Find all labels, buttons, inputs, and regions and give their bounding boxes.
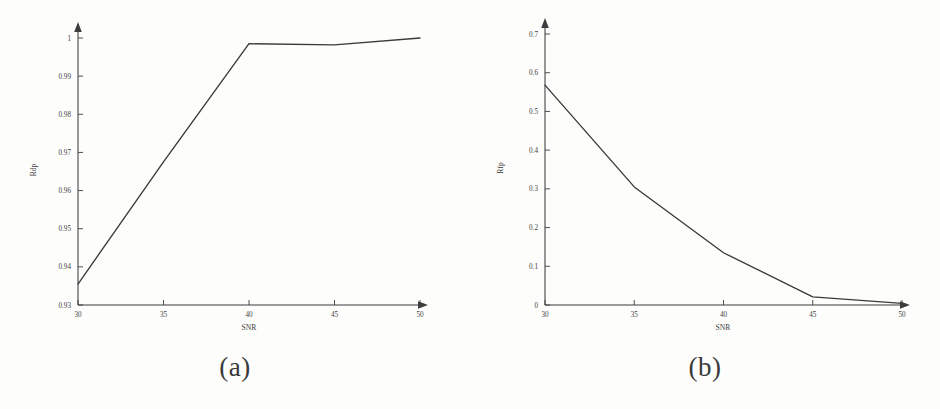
y-axis-label-a: Rdp xyxy=(29,163,38,176)
y-tick-label: 0.96 xyxy=(58,187,71,195)
y-tick-label: 0.7 xyxy=(529,31,538,39)
subfigure-b: 00.10.20.30.40.50.60.7 3035404550 SNR Rf… xyxy=(470,0,940,409)
data-series-a xyxy=(78,38,420,284)
x-tick-group-b: 3035404550 xyxy=(541,300,906,319)
line-chart-b: 00.10.20.30.40.50.60.7 3035404550 SNR Rf… xyxy=(470,0,940,345)
y-tick-label: 0.95 xyxy=(58,225,71,233)
subfigure-caption-a: (a) xyxy=(0,352,470,383)
line-chart-a: 0.930.940.950.960.970.980.991 3035404550… xyxy=(0,0,470,345)
y-axis-arrow-a xyxy=(74,22,82,32)
plot-area-a: 0.930.940.950.960.970.980.991 3035404550… xyxy=(0,0,470,345)
x-tick-label: 40 xyxy=(245,311,253,319)
x-tick-label: 40 xyxy=(720,311,728,319)
x-tick-label: 35 xyxy=(631,311,639,319)
data-series-b xyxy=(545,85,902,303)
y-tick-label: 1 xyxy=(67,35,71,43)
plot-area-b: 00.10.20.30.40.50.60.7 3035404550 SNR Rf… xyxy=(470,0,940,345)
subfigure-caption-b: (b) xyxy=(470,352,940,383)
x-axis-label-b: SNR xyxy=(716,323,732,332)
figure-page: 0.930.940.950.960.970.980.991 3035404550… xyxy=(0,0,940,409)
y-tick-label: 0.6 xyxy=(529,69,538,77)
y-tick-label: 0.1 xyxy=(529,263,538,271)
y-tick-label: 0.93 xyxy=(58,302,71,310)
subfigure-a: 0.930.940.950.960.970.980.991 3035404550… xyxy=(0,0,470,409)
y-tick-group-a: 0.930.940.950.960.970.980.991 xyxy=(58,35,83,310)
x-axis-label-a: SNR xyxy=(242,323,258,332)
x-axis-arrow-b xyxy=(900,301,910,309)
y-tick-label: 0.98 xyxy=(58,111,71,119)
y-tick-label: 0.2 xyxy=(529,224,538,232)
y-tick-label: 0 xyxy=(534,302,538,310)
y-tick-label: 0.5 xyxy=(529,108,538,116)
y-tick-label: 0.4 xyxy=(529,147,538,155)
y-axis-label-b: Rfp xyxy=(496,162,505,174)
x-tick-label: 50 xyxy=(898,311,906,319)
x-tick-label: 45 xyxy=(331,311,339,319)
y-tick-label: 0.97 xyxy=(58,149,71,157)
y-tick-label: 0.94 xyxy=(58,263,71,271)
y-tick-group-b: 00.10.20.30.40.50.60.7 xyxy=(529,31,550,310)
y-axis-arrow-b xyxy=(541,18,549,28)
x-tick-group-a: 3035404550 xyxy=(74,300,424,319)
x-tick-label: 35 xyxy=(160,311,168,319)
x-tick-label: 45 xyxy=(809,311,817,319)
x-tick-label: 50 xyxy=(416,311,424,319)
x-axis-arrow-a xyxy=(418,301,428,309)
y-tick-label: 0.99 xyxy=(58,73,71,81)
x-tick-label: 30 xyxy=(74,311,82,319)
y-tick-label: 0.3 xyxy=(529,185,538,193)
x-tick-label: 30 xyxy=(541,311,549,319)
